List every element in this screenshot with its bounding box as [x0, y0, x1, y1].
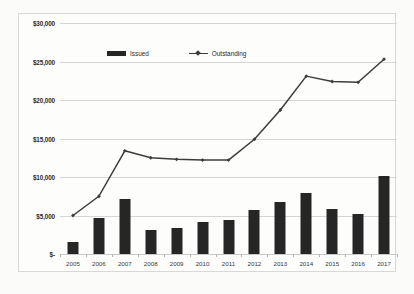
line-marker — [330, 80, 334, 84]
chart-legend: Issued Outstanding — [107, 50, 246, 57]
x-axis-tick — [293, 254, 294, 257]
x-axis-tick — [319, 254, 320, 257]
line-marker — [201, 158, 205, 162]
x-axis-tick-label: 2017 — [377, 260, 391, 267]
gridline: $- — [60, 254, 397, 255]
x-axis-tick-label: 2006 — [92, 260, 106, 267]
y-axis-tick-label: $25,000 — [33, 58, 55, 65]
x-axis-tick — [216, 254, 217, 257]
x-axis-tick-label: 2010 — [196, 260, 210, 267]
x-axis-tick — [86, 254, 87, 257]
x-axis-tick-label: 2013 — [273, 260, 287, 267]
y-axis-tick-label: $5,000 — [36, 212, 55, 219]
y-axis-tick-label: $15,000 — [33, 135, 55, 142]
line-diamond-swatch-icon — [189, 51, 208, 57]
line-marker — [149, 156, 153, 160]
legend-entry-issued: Issued — [107, 50, 149, 57]
x-axis-tick — [267, 254, 268, 257]
y-axis-tick-label: $20,000 — [33, 97, 55, 104]
x-axis-tick — [190, 254, 191, 257]
page-background: $-$5,000$10,000$15,000$20,000$25,000$30,… — [0, 0, 414, 294]
chart-frame: $-$5,000$10,000$15,000$20,000$25,000$30,… — [18, 13, 396, 272]
x-axis-tick-label: 2007 — [118, 260, 132, 267]
x-axis-tick-label: 2008 — [144, 260, 158, 267]
x-axis-tick — [138, 254, 139, 257]
x-axis-tick-label: 2015 — [325, 260, 339, 267]
x-axis-tick — [397, 254, 398, 257]
x-axis-tick-label: 2005 — [66, 260, 80, 267]
bar-swatch-icon — [107, 51, 126, 56]
y-axis-tick-label: $10,000 — [33, 174, 55, 181]
x-axis-tick — [60, 254, 61, 257]
x-axis-tick-label: 2016 — [351, 260, 365, 267]
x-axis-tick — [371, 254, 372, 257]
x-axis-tick — [241, 254, 242, 257]
y-axis-tick-label: $- — [50, 251, 55, 258]
x-axis-tick-label: 2011 — [222, 260, 235, 267]
legend-label-outstanding: Outstanding — [212, 50, 246, 57]
line-series-outstanding — [60, 23, 397, 254]
legend-entry-outstanding: Outstanding — [189, 50, 246, 57]
y-axis-tick-label: $30,000 — [33, 20, 55, 27]
x-axis-tick — [345, 254, 346, 257]
plot-area: $-$5,000$10,000$15,000$20,000$25,000$30,… — [60, 23, 397, 254]
x-axis-tick-label: 2014 — [299, 260, 313, 267]
x-axis-tick — [112, 254, 113, 257]
x-axis-tick-label: 2012 — [248, 260, 262, 267]
outstanding-line — [73, 59, 384, 215]
line-marker — [175, 157, 179, 161]
legend-label-issued: Issued — [130, 50, 149, 57]
x-axis-tick — [164, 254, 165, 257]
x-axis-tick-label: 2009 — [170, 260, 184, 267]
